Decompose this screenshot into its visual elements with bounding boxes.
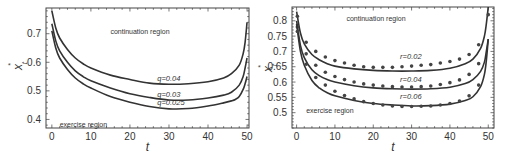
left-chart-q-parameter: 010203040500.40.50.60.7txt*q=0.04q=0.03q… <box>7 8 253 154</box>
data-marker <box>371 102 375 106</box>
y-tick-label: 0.8 <box>273 15 287 26</box>
data-marker <box>391 66 395 70</box>
x-tick-label: 40 <box>202 131 214 142</box>
data-marker <box>458 78 462 82</box>
right-chart-r-parameter: 010203040500.50.550.60.650.70.750.8txt*r… <box>257 7 494 154</box>
data-marker <box>477 43 481 47</box>
data-marker <box>486 13 490 17</box>
data-marker <box>343 94 347 98</box>
region-annotation: exercise region <box>306 107 354 115</box>
data-marker <box>381 103 385 107</box>
x-tick-label: 30 <box>406 131 418 142</box>
data-marker <box>391 85 395 89</box>
data-marker <box>362 65 366 69</box>
data-marker <box>400 105 404 109</box>
data-marker <box>410 105 414 109</box>
data-marker <box>324 55 328 59</box>
data-marker <box>343 78 347 82</box>
y-tick-label: 0.5 <box>273 107 287 118</box>
x-tick-label: 0 <box>294 131 300 142</box>
axis-ticks <box>46 8 249 128</box>
y-tick-label: 0.5 <box>27 85 41 96</box>
data-marker <box>477 62 481 66</box>
data-marker <box>362 100 366 104</box>
plot-frame <box>46 8 249 128</box>
y-tick-label: 0.4 <box>27 114 41 125</box>
y-axis-title: xt* <box>7 61 29 71</box>
data-marker <box>304 40 308 44</box>
y-tick-label: 0.6 <box>27 57 41 68</box>
y-tick-label: 0.55 <box>268 92 288 103</box>
curve-label: r=0.06 <box>400 92 422 101</box>
series-q-0-04 <box>52 11 247 84</box>
data-marker <box>304 52 308 56</box>
data-marker <box>343 61 347 65</box>
data-marker <box>429 104 433 108</box>
data-marker <box>371 66 375 70</box>
data-marker <box>381 66 385 70</box>
x-tick-label: 0 <box>49 131 55 142</box>
data-marker <box>362 82 366 86</box>
data-marker <box>371 83 375 87</box>
x-tick-label: 20 <box>124 131 136 142</box>
data-marker <box>400 85 404 89</box>
data-marker <box>419 63 423 67</box>
y-tick-label: 0.6 <box>273 77 287 88</box>
data-marker <box>296 30 300 34</box>
curve-line <box>52 11 247 84</box>
data-marker <box>419 104 423 108</box>
data-marker <box>419 85 423 89</box>
curve-label: r=0.02 <box>400 52 422 61</box>
data-marker <box>410 64 414 68</box>
data-marker <box>352 97 356 101</box>
data-marker <box>391 104 395 108</box>
y-tick-label: 0.7 <box>27 28 41 39</box>
data-marker <box>458 57 462 61</box>
x-tick-label: 50 <box>483 131 495 142</box>
data-marker <box>352 63 356 67</box>
series-r-0-04 <box>296 21 489 89</box>
x-tick-label: 30 <box>163 131 175 142</box>
curve-label: r=0.04 <box>400 75 421 84</box>
data-marker <box>333 89 337 93</box>
data-marker <box>448 102 452 106</box>
x-tick-label: 10 <box>85 131 97 142</box>
y-tick-label: 0.75 <box>268 31 288 42</box>
x-tick-label: 50 <box>241 131 253 142</box>
data-marker <box>448 81 452 85</box>
data-marker <box>314 50 318 54</box>
curve-label: q=0.04 <box>157 74 180 83</box>
x-tick-label: 40 <box>444 131 456 142</box>
data-marker <box>458 99 462 103</box>
data-marker <box>333 59 337 63</box>
figure: 010203040500.40.50.60.7txt*q=0.04q=0.03q… <box>0 0 509 157</box>
region-annotation: continuation region <box>110 28 169 36</box>
data-marker <box>314 63 318 67</box>
data-marker <box>400 65 404 69</box>
data-marker <box>429 84 433 88</box>
curve-label: q=0.025 <box>157 98 185 107</box>
data-marker <box>296 14 300 18</box>
x-tick-label: 10 <box>329 131 341 142</box>
data-marker <box>439 61 443 65</box>
data-marker <box>448 60 452 64</box>
data-marker <box>439 83 443 87</box>
data-marker <box>324 70 328 74</box>
data-marker <box>467 53 471 57</box>
y-tick-label: 0.7 <box>273 46 287 57</box>
region-annotation: exercise region <box>60 121 108 129</box>
data-marker <box>467 73 471 77</box>
data-marker <box>314 76 318 80</box>
x-axis-title: t <box>391 140 395 154</box>
data-marker <box>352 80 356 84</box>
x-tick-label: 20 <box>368 131 380 142</box>
data-marker <box>439 103 443 107</box>
data-marker <box>381 84 385 88</box>
data-marker <box>324 83 328 87</box>
data-marker <box>304 62 308 66</box>
data-marker <box>333 75 337 79</box>
region-annotation: continuation region <box>346 15 405 23</box>
data-marker <box>410 85 414 89</box>
data-marker <box>429 63 433 67</box>
data-marker <box>477 83 481 87</box>
